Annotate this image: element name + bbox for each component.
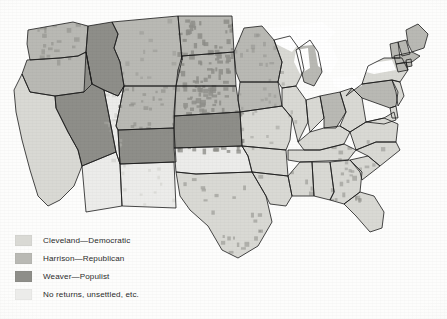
county-patch: [258, 213, 262, 217]
county-patch: [219, 116, 221, 119]
county-patch: [173, 51, 176, 56]
county-patch: [250, 136, 253, 138]
legend-item-no-returns: No returns, unsettled, etc.: [15, 285, 139, 303]
county-patch: [349, 169, 352, 172]
county-patch: [192, 101, 197, 105]
county-patch: [183, 39, 187, 42]
county-patch: [212, 104, 216, 106]
county-patch: [233, 136, 236, 140]
county-patch: [140, 58, 144, 61]
county-patch: [153, 50, 158, 53]
county-patch: [208, 90, 213, 95]
county-patch: [181, 118, 186, 121]
county-patch: [183, 182, 186, 186]
county-patch: [227, 236, 231, 240]
state-newmexico: [120, 162, 176, 208]
legend-swatch-republican: [15, 253, 32, 264]
county-patch: [209, 62, 212, 64]
legend-label-democratic: Cleveland—Democratic: [43, 235, 130, 246]
county-patch: [183, 88, 187, 92]
county-patch: [187, 137, 191, 142]
county-patch: [256, 34, 260, 37]
county-patch: [226, 126, 230, 131]
county-patch: [183, 222, 187, 226]
county-patch: [258, 175, 263, 179]
county-patch: [57, 40, 62, 43]
county-patch: [239, 93, 241, 95]
county-patch: [215, 194, 219, 197]
county-patch: [72, 46, 76, 49]
county-patch: [198, 61, 202, 65]
county-patch: [195, 81, 199, 84]
county-patch: [375, 174, 379, 178]
county-patch: [266, 135, 269, 138]
county-patch: [229, 132, 231, 138]
county-patch: [258, 230, 263, 233]
county-patch: [263, 42, 266, 46]
county-patch: [225, 112, 230, 116]
county-patch: [193, 125, 197, 131]
county-patch: [177, 120, 182, 125]
county-patch: [211, 211, 214, 215]
county-patch: [41, 49, 45, 54]
map-plate: Cleveland—Democratic Harrison—Republican…: [0, 0, 447, 319]
county-patch: [200, 117, 205, 119]
county-patch: [265, 98, 268, 101]
county-patch: [125, 89, 129, 91]
county-patch: [143, 203, 146, 205]
county-patch: [372, 163, 375, 166]
county-patch: [365, 166, 370, 169]
county-patch: [198, 88, 203, 92]
county-patch: [193, 121, 197, 125]
state-missouri: [240, 106, 292, 150]
county-patch: [190, 116, 192, 120]
county-patch: [266, 63, 268, 67]
county-patch: [274, 95, 277, 98]
county-patch: [223, 81, 229, 84]
county-patch: [224, 20, 230, 24]
county-patch: [241, 107, 243, 110]
legend-label-populist: Weaver—Populist: [43, 271, 109, 282]
county-patch: [208, 75, 211, 79]
county-patch: [241, 247, 246, 249]
county-patch: [172, 62, 177, 66]
county-patch: [149, 108, 152, 111]
county-patch: [246, 49, 248, 52]
county-patch: [335, 198, 338, 201]
county-patch: [309, 192, 314, 196]
county-patch: [217, 61, 223, 64]
county-patch: [183, 82, 188, 88]
county-patch: [229, 251, 234, 254]
county-patch: [350, 174, 353, 176]
county-patch: [231, 53, 234, 59]
legend: Cleveland—Democratic Harrison—Republican…: [15, 231, 139, 303]
county-patch: [158, 98, 162, 100]
county-patch: [347, 180, 350, 183]
county-patch: [155, 91, 157, 93]
county-patch: [201, 186, 206, 189]
county-patch: [314, 202, 319, 206]
county-patch: [187, 98, 192, 100]
county-patch: [177, 135, 180, 139]
county-patch: [200, 113, 204, 118]
county-patch: [385, 179, 388, 182]
county-patch: [140, 77, 143, 79]
county-patch: [192, 178, 197, 181]
county-patch: [130, 129, 135, 134]
county-patch: [226, 61, 230, 64]
county-patch: [224, 116, 227, 118]
county-patch: [173, 87, 176, 90]
county-patch: [199, 103, 205, 107]
county-patch: [160, 183, 162, 186]
county-patch: [352, 176, 357, 181]
county-patch: [185, 19, 190, 22]
county-patch: [235, 118, 237, 123]
county-patch: [225, 55, 230, 58]
county-patch: [227, 71, 231, 74]
county-patch: [204, 42, 209, 46]
county-patch: [183, 53, 188, 56]
county-patch: [144, 106, 149, 110]
county-patch: [148, 122, 152, 126]
county-patch: [140, 194, 143, 196]
county-patch: [211, 69, 214, 74]
